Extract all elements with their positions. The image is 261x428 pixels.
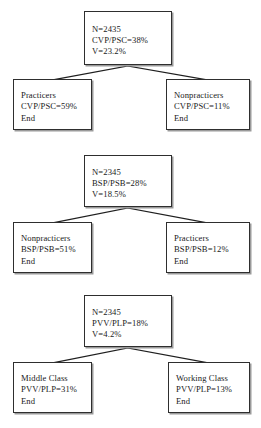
root-node-1: N=2435 CVP/PSC=38% V=23.2% [84,11,172,65]
leaf-node-working-class-label: Working Class [176,373,249,384]
leaf-node-middle-class-measure: PVV/PLP=31% [21,384,91,395]
leaf-node-practicers-2-terminal: End [174,256,249,267]
leaf-node-practicers-2-label: Practicers [174,233,249,244]
leaf-node-nonpracticers-1-measure: CVP/PSC=11% [174,101,249,112]
leaf-node-middle-class-label: Middle Class [21,373,91,384]
leaf-node-working-class-measure: PVV/PLP=13% [176,384,249,395]
root-node-2-measure: BSP/PSB=28% [92,178,171,189]
root-node-1-measure: CVP/PSC=38% [92,35,171,46]
leaf-node-practicers-2-measure: BSP/PSB=12% [174,244,249,255]
leaf-node-nonpracticers-1: Nonpracticers CVP/PSC=11% End [166,79,250,130]
root-node-1-variance: V=23.2% [92,46,171,57]
connector-3-left [52,348,128,363]
leaf-node-middle-class: Middle Class PVV/PLP=31% End [13,362,92,413]
connector-1-left [52,66,128,80]
root-node-3-sample-size: N=2345 [92,307,171,318]
leaf-node-working-class: Working Class PVV/PLP=13% End [168,362,250,413]
leaf-node-working-class-terminal: End [176,396,249,407]
leaf-node-practicers-2: Practicers BSP/PSB=12% End [166,222,250,273]
leaf-node-practicers-1-label: Practicers [21,90,91,101]
decision-tree-diagram: N=2435 CVP/PSC=38% V=23.2% Practicers CV… [0,0,261,428]
leaf-node-nonpracticers-1-label: Nonpracticers [174,90,249,101]
connector-1-right [128,66,208,80]
connector-3-right [128,348,209,363]
leaf-node-practicers-1-terminal: End [21,113,91,124]
leaf-node-nonpracticers-1-terminal: End [174,113,249,124]
root-node-3-measure: PVV/PLP=18% [92,318,171,329]
leaf-node-nonpracticers-2-terminal: End [21,256,91,267]
leaf-node-nonpracticers-2-measure: BSP/PSB=51% [21,244,91,255]
root-node-2-sample-size: N=2345 [92,167,171,178]
root-node-3-variance: V=4.2% [92,329,171,340]
connector-2-right [128,208,208,223]
leaf-node-nonpracticers-2: Nonpracticers BSP/PSB=51% End [13,222,92,273]
root-node-3: N=2345 PVV/PLP=18% V=4.2% [84,295,172,347]
leaf-node-practicers-1: Practicers CVP/PSC=59% End [13,79,92,130]
connector-2-left [52,208,128,223]
leaf-node-middle-class-terminal: End [21,396,91,407]
root-node-2: N=2345 BSP/PSB=28% V=18.5% [84,155,172,207]
leaf-node-practicers-1-measure: CVP/PSC=59% [21,101,91,112]
leaf-node-nonpracticers-2-label: Nonpracticers [21,233,91,244]
root-node-2-variance: V=18.5% [92,189,171,200]
root-node-1-sample-size: N=2435 [92,24,171,35]
